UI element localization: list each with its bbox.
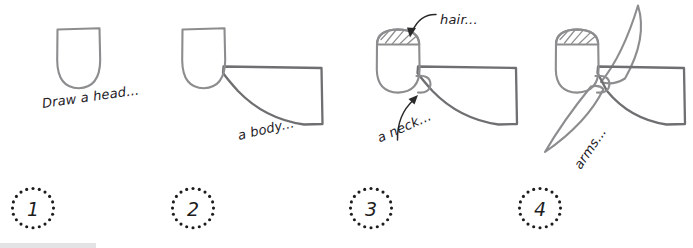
drawing-tutorial: Draw a head...: [0, 0, 693, 248]
step-3-badge: 3: [348, 186, 394, 232]
step-2-badge: 2: [170, 186, 216, 232]
body-shape: [418, 67, 518, 125]
hair-leader-arrow: [407, 14, 436, 37]
tutorial-step-1: Draw a head...: [0, 0, 165, 248]
step-3-drawing: [340, 0, 525, 185]
body-shape: [598, 67, 686, 125]
step-1-number: 1: [10, 186, 56, 232]
step-2-drawing: [160, 0, 350, 185]
step-3-number: 3: [348, 186, 394, 232]
step-4-number: 4: [517, 186, 563, 232]
page-edge-mark: [0, 243, 96, 248]
step-3-hair-caption: hair...: [440, 12, 478, 27]
tutorial-step-4: arms...: [515, 0, 693, 248]
tutorial-step-3: hair... a neck...: [340, 0, 525, 248]
head-shape: [182, 28, 225, 88]
tutorial-step-2: a body...: [160, 0, 350, 248]
step-1-badge: 1: [10, 186, 56, 232]
step-4-badge: 4: [517, 186, 563, 232]
step-4-drawing: [515, 0, 693, 185]
body-shape: [223, 67, 323, 125]
head-shape: [57, 28, 100, 88]
step-2-number: 2: [170, 186, 216, 232]
arm-upper-shape: [601, 6, 641, 84]
